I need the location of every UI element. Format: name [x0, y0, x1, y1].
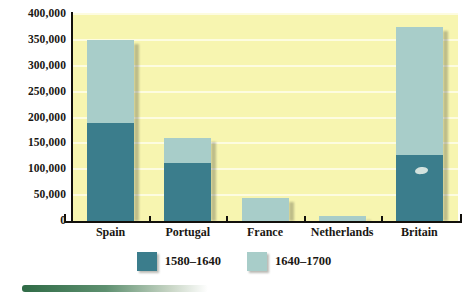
legend-label: 1580–1640	[165, 255, 221, 268]
bar-segment-1580-1640	[87, 123, 134, 221]
y-tick-label: 0	[2, 215, 66, 227]
x-label-portugal: Portugal	[149, 226, 226, 238]
footer-accent-strip	[22, 285, 208, 292]
x-tick-mark	[149, 216, 151, 223]
x-label-netherlands: Netherlands	[304, 226, 381, 238]
y-tick-label: 150,000	[2, 137, 66, 149]
bar-shadow	[211, 142, 216, 221]
x-tick-mark	[226, 216, 228, 223]
bar-shadow	[289, 202, 294, 221]
y-tick-label: 50,000	[2, 189, 66, 201]
bar-britain	[396, 27, 443, 221]
legend-item: 1640–1700	[247, 252, 331, 271]
bar-shadow	[134, 44, 139, 221]
bar-segment-1580-1640	[396, 155, 443, 221]
gridline	[72, 13, 458, 15]
y-tick-label: 400,000	[2, 8, 66, 20]
x-tick-mark	[381, 216, 383, 223]
x-axis-right-cap	[460, 214, 462, 223]
bar-spain	[87, 40, 134, 221]
bar-shadow	[443, 31, 448, 221]
bar-segment-1580-1640	[164, 163, 211, 221]
x-tick-mark	[304, 216, 306, 223]
plot-area	[72, 14, 458, 221]
x-label-britain: Britain	[381, 226, 458, 238]
y-tick-label: 100,000	[2, 163, 66, 175]
chart-legend: 1580–16401640–1700	[0, 252, 468, 271]
bar-segment-1640-1700	[87, 40, 134, 123]
x-axis-line	[64, 221, 462, 223]
legend-swatch	[247, 252, 267, 271]
x-label-spain: Spain	[72, 226, 149, 238]
legend-item: 1580–1640	[137, 252, 221, 271]
x-label-france: France	[226, 226, 303, 238]
y-axis-line	[71, 12, 73, 223]
bar-segment-1640-1700	[396, 27, 443, 155]
stacked-bar-chart: 050,000100,000150,000200,000250,000300,0…	[0, 0, 468, 294]
bar-segment-1640-1700	[164, 138, 211, 163]
y-tick-label: 300,000	[2, 60, 66, 72]
bar-portugal	[164, 138, 211, 221]
y-axis-tick-labels: 050,000100,000150,000200,000250,000300,0…	[0, 0, 66, 294]
legend-swatch	[137, 252, 157, 271]
y-tick-label: 350,000	[2, 34, 66, 46]
y-tick-label: 200,000	[2, 112, 66, 124]
y-tick-label: 250,000	[2, 86, 66, 98]
bar-france	[242, 198, 289, 221]
legend-label: 1640–1700	[275, 255, 331, 268]
bar-segment-1640-1700	[242, 198, 289, 221]
